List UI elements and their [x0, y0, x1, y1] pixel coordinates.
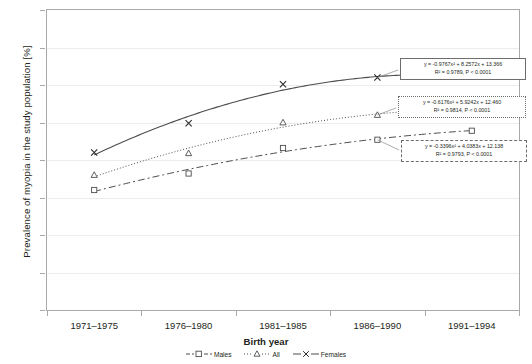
- x-tick-label: 1991–1994: [417, 320, 527, 331]
- equation-box-all: y = -0.6176x² + 5.9242x + 12.460 R² = 0.…: [398, 96, 526, 118]
- legend-label: Females: [321, 351, 346, 358]
- y-tick-mark: [40, 85, 45, 86]
- x-marker: [293, 350, 319, 358]
- equation-stats-males: R² = 0.9793, P < 0.0001: [405, 151, 523, 159]
- legend-item-females[interactable]: Females: [293, 350, 346, 358]
- y-tick-mark: [40, 310, 45, 311]
- legend-label: All: [272, 351, 279, 358]
- gridline: [47, 198, 519, 199]
- equation-stats-all: R² = 0.9814, P < 0.0001: [402, 107, 522, 115]
- x-tick-mark: [236, 311, 237, 316]
- x-tick-mark: [47, 311, 48, 316]
- legend-item-males[interactable]: Males: [186, 350, 232, 358]
- gridline: [47, 85, 519, 86]
- legend-item-all[interactable]: All: [244, 350, 279, 358]
- y-tick-mark: [40, 198, 45, 199]
- y-tick-mark: [40, 48, 45, 49]
- chart-legend: MalesAllFemales: [0, 350, 532, 358]
- myopia-prevalence-chart: Prevalence of myopia in the study popula…: [0, 0, 532, 364]
- equation-text-all: y = -0.6176x² + 5.9242x + 12.460: [402, 99, 522, 107]
- triangle-marker: [244, 350, 270, 358]
- x-tick-mark: [519, 311, 520, 316]
- x-axis-title: Birth year: [0, 336, 532, 347]
- x-tick-mark: [425, 311, 426, 316]
- gridline: [47, 123, 519, 124]
- y-tick-mark: [40, 273, 45, 274]
- y-tick-mark: [40, 160, 45, 161]
- y-tick-mark: [40, 123, 45, 124]
- equation-box-males: y = -0.3396x² + 4.0383x + 12.138 R² = 0.…: [401, 140, 527, 162]
- y-tick-mark: [40, 235, 45, 236]
- x-tick-mark: [141, 311, 142, 316]
- gridline: [47, 235, 519, 236]
- y-axis-title: Prevalence of myopia in the study popula…: [21, 2, 32, 302]
- equation-text-males: y = -0.3396x² + 4.0383x + 12.138: [405, 143, 523, 151]
- gridline: [47, 273, 519, 274]
- square-marker: [186, 350, 212, 358]
- x-tick-mark: [330, 311, 331, 316]
- equation-box-females: y = -0.9767x² + 8.2572x + 13.366 R² = 0.…: [400, 58, 526, 80]
- gridline: [47, 48, 519, 49]
- y-tick-mark: [40, 10, 45, 11]
- legend-label: Males: [214, 351, 232, 358]
- equation-stats-females: R² = 0.9789, P < 0.0001: [404, 69, 522, 77]
- equation-text-females: y = -0.9767x² + 8.2572x + 13.366: [404, 61, 522, 69]
